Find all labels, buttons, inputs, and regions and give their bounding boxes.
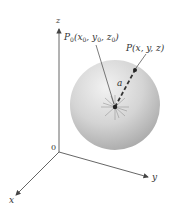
origin-label: 0 bbox=[51, 144, 56, 152]
y-axis bbox=[59, 152, 148, 177]
center-point-label: P0(x0, y0, z0) bbox=[64, 33, 119, 43]
center-point bbox=[113, 105, 117, 109]
center-sep1: , y bbox=[86, 32, 97, 42]
center-sep2: , z bbox=[101, 32, 111, 42]
point-label-leader bbox=[136, 54, 146, 68]
center-close: ) bbox=[115, 32, 119, 42]
surface-point bbox=[133, 68, 137, 72]
radius-label: a bbox=[117, 79, 122, 88]
x-axis-label: x bbox=[9, 196, 14, 205]
sphere-diagram: z x y 0 P0(x0, y0, z0) P(x, y, z) a bbox=[0, 0, 175, 219]
surface-point-label: P(x, y, z) bbox=[126, 44, 164, 53]
y-axis-label: y bbox=[152, 173, 157, 182]
x-axis bbox=[16, 152, 59, 195]
z-axis-label: z bbox=[56, 17, 60, 25]
